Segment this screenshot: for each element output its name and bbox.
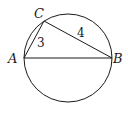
point-label-c: C [34, 6, 44, 21]
geometry-diagram: C A B 3 4 [0, 0, 128, 114]
length-label-cb: 4 [77, 26, 85, 40]
point-label-a: A [7, 51, 17, 66]
point-label-b: B [112, 51, 123, 66]
length-label-ac: 3 [37, 36, 45, 50]
